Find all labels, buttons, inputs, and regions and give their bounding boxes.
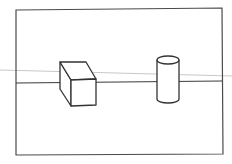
perspective-diagram	[0, 0, 232, 164]
cylinder	[157, 56, 179, 103]
cube	[60, 62, 96, 106]
cylinder-body	[157, 60, 179, 103]
cube-front-face	[71, 79, 96, 106]
guide-line	[0, 70, 232, 76]
cylinder-top	[157, 56, 179, 64]
horizon-line	[16, 81, 222, 83]
